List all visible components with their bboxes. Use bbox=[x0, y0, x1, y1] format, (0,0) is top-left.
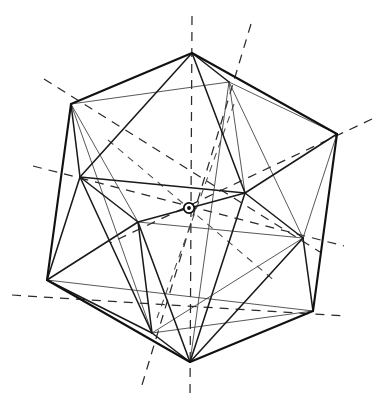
center-marker-group bbox=[184, 203, 194, 213]
figure-canvas bbox=[0, 0, 384, 408]
icosahedron-diagram bbox=[0, 0, 384, 408]
center-dot-icon bbox=[187, 206, 191, 210]
